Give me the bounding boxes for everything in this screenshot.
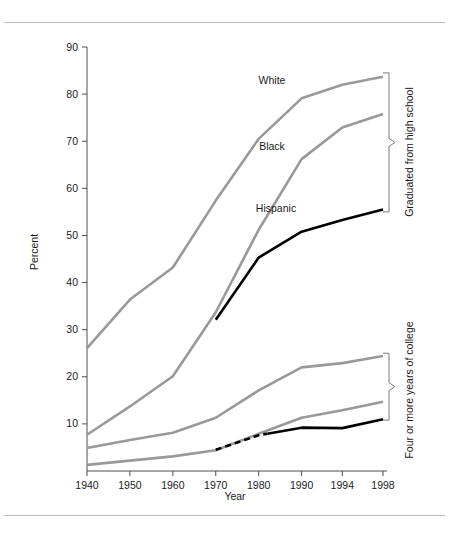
highschool-group-brace [383, 73, 395, 212]
series-path-white-highschool [87, 77, 383, 348]
y-tick-label: 20 [66, 370, 78, 382]
x-tick-label: 1950 [118, 479, 142, 491]
x-axis-title: Year [224, 490, 246, 502]
top-divider-rule [4, 22, 445, 23]
line-chart-plot: 102030405060708090 194019501960197019801… [0, 0, 449, 533]
y-tick-label: 40 [66, 276, 78, 288]
y-tick-label: 80 [66, 88, 78, 100]
x-axis-ticks [87, 471, 383, 476]
chart-figure: 102030405060708090 194019501960197019801… [0, 0, 449, 533]
series-path-hispanic-college [267, 419, 383, 434]
series-lines-group [87, 77, 383, 465]
series-path-black-highschool [87, 114, 383, 435]
y-axis-tick-labels: 102030405060708090 [66, 41, 78, 430]
y-tick-label: 50 [66, 229, 78, 241]
college-group-brace [383, 353, 395, 420]
x-tick-label: 1990 [290, 479, 314, 491]
y-tick-label: 60 [66, 182, 78, 194]
y-tick-label: 70 [66, 135, 78, 147]
y-tick-label: 10 [66, 417, 78, 429]
group-label-highschool: Graduated from high school [403, 87, 415, 217]
x-tick-label: 1980 [247, 479, 271, 491]
series-path-black-college [87, 402, 383, 465]
group-label-college: Four or more years of college [403, 321, 415, 458]
x-tick-label: 1960 [161, 479, 185, 491]
series-label-white: White [259, 74, 286, 86]
x-tick-label: 1998 [371, 479, 395, 491]
series-path-white-college [87, 356, 383, 448]
y-tick-label: 30 [66, 323, 78, 335]
series-label-hispanic: Hispanic [256, 202, 296, 214]
bottom-divider-rule [4, 515, 445, 516]
y-tick-label: 90 [66, 41, 78, 53]
series-label-black: Black [259, 140, 285, 152]
x-tick-label: 1994 [331, 479, 355, 491]
x-tick-label: 1940 [75, 479, 99, 491]
y-axis-ticks [82, 47, 87, 424]
y-axis-title: Percent [28, 234, 40, 270]
